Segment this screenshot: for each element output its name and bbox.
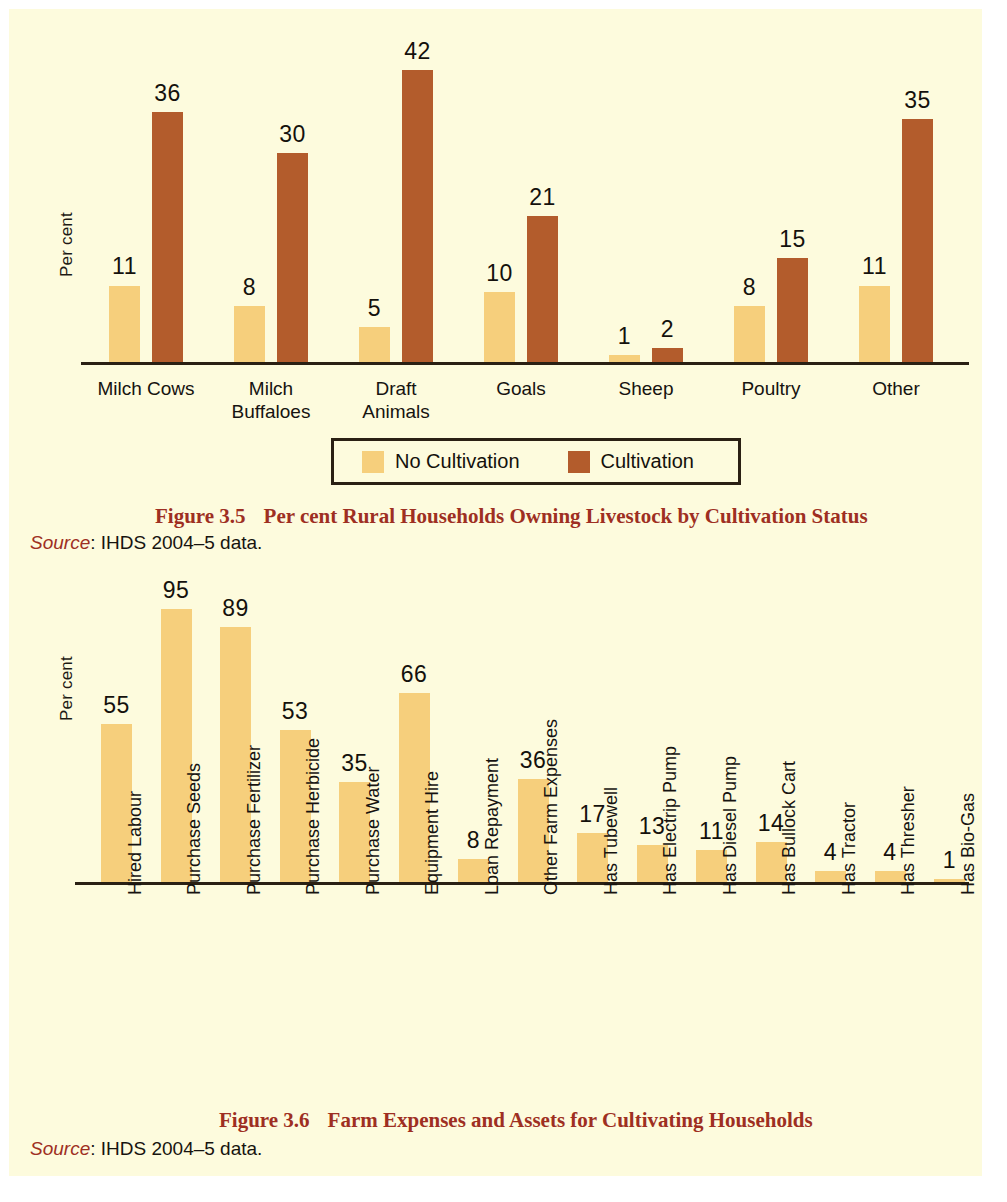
figure-3-5-bar-value: 30 — [259, 121, 326, 148]
figure-3-5-chart: Per cent 11368305421021128151135 Milch C… — [9, 9, 982, 484]
figure-3-5-caption-title: Per cent Rural Households Owning Livesto… — [264, 504, 868, 528]
figure-3-5-bar-value: 8 — [216, 274, 283, 301]
figure-3-5-bar-value: 15 — [759, 226, 826, 253]
figure-3-5-bar — [277, 153, 308, 362]
figure-3-5-x-axis-line — [81, 362, 969, 365]
legend-label-cultivation: Cultivation — [601, 450, 694, 473]
figure-3-5-bar-value: 5 — [341, 295, 408, 322]
figure-3-5-bar — [527, 216, 558, 362]
figure-3-5-caption-number: Figure 3.5 — [155, 504, 246, 528]
figure-3-5-source-text: : IHDS 2004–5 data. — [90, 532, 262, 553]
legend-swatch-cultivation-icon — [568, 451, 590, 473]
figure-3-5-bar — [234, 306, 265, 362]
figure-3-6-category-label: Has Electrip Pump — [660, 746, 681, 895]
figure-3-6-chart: Per cent 55958953356683617131114441 Hire… — [9, 569, 982, 1089]
figure-3-5-bar — [859, 286, 890, 363]
figure-3-6-caption-title: Farm Expenses and Assets for Cultivating… — [328, 1108, 813, 1132]
legend-label-no-cultivation: No Cultivation — [395, 450, 520, 473]
figure-3-5-category-labels: Milch CowsMilchBuffaloesDraftAnimalsGoal… — [9, 9, 982, 69]
figure-3-5-bar — [109, 286, 140, 363]
figure-3-6-source: Source: IHDS 2004–5 data. — [30, 1138, 262, 1160]
figure-3-5-bar — [777, 258, 808, 362]
figure-3-6-caption: Figure 3.6Farm Expenses and Assets for C… — [219, 1108, 813, 1133]
figure-3-6-category-label: Has Thresher — [898, 786, 919, 895]
figure-3-6-category-label: Has Diesel Pump — [720, 756, 741, 895]
figure-3-5-bar — [359, 327, 390, 362]
figure-3-5-bar — [652, 348, 683, 362]
figure-3-6-category-label: Has Tractor — [839, 802, 860, 895]
figure-3-5-bar-value: 8 — [716, 274, 783, 301]
figure-3-6-source-word: Source — [30, 1138, 90, 1159]
figure-3-5-legend: No Cultivation Cultivation — [331, 438, 741, 485]
figure-3-5-caption: Figure 3.5Per cent Rural Households Owni… — [155, 504, 868, 529]
legend-entry-no-cultivation: No Cultivation — [362, 450, 520, 473]
figure-3-5-plot-area: 11368305421021128151135 — [81, 49, 961, 362]
figure-3-5-bar — [152, 112, 183, 362]
figure-3-5-bar — [734, 306, 765, 362]
figure-3-6-category-label: Purchase Seeds — [184, 763, 205, 895]
figure-3-5-category-label: Other — [816, 377, 976, 400]
figure-3-6-category-labels: Hired LabourPurchase SeedsPurchase Ferti… — [9, 569, 982, 769]
figure-3-5-bar — [902, 119, 933, 362]
figure-3-5-bar-value: 11 — [91, 253, 158, 280]
figure-3-5-bar-value: 2 — [634, 316, 701, 343]
figure-3-6-category-label: Purchase Fertilizer — [244, 745, 265, 895]
figure-3-5-source: Source: IHDS 2004–5 data. — [30, 532, 262, 554]
figure-3-6-category-label: Purchase Water — [363, 767, 384, 895]
figure-3-5-bar-value: 11 — [841, 253, 908, 280]
figure-3-5-bar — [484, 292, 515, 362]
figure-3-5-bar-value: 10 — [466, 260, 533, 287]
figure-3-6-category-label: Other Farm Expenses — [541, 719, 562, 895]
figure-3-6-category-label: Has Bullock Cart — [779, 761, 800, 895]
legend-swatch-no-cultivation-icon — [362, 451, 384, 473]
figure-3-6-source-text: : IHDS 2004–5 data. — [90, 1138, 262, 1159]
figure-3-5-bar-value: 21 — [509, 184, 576, 211]
figure-3-6-x-axis-line — [75, 882, 969, 885]
figure-3-6-category-label: Hired Labour — [125, 791, 146, 895]
figure-3-5-bar-value: 35 — [884, 87, 951, 114]
figure-3-5-bar-value: 36 — [134, 80, 201, 107]
figure-3-6-caption-number: Figure 3.6 — [219, 1108, 310, 1132]
page-canvas: Per cent 11368305421021128151135 Milch C… — [9, 9, 982, 1176]
figure-3-5-bar — [402, 70, 433, 362]
figure-3-6-category-label: Has Tubewell — [601, 787, 622, 895]
figure-3-5-source-word: Source — [30, 532, 90, 553]
figure-3-6-category-label: Has Bio-Gas — [958, 793, 979, 895]
figure-3-6-category-label: Loan Repayment — [482, 758, 503, 895]
figure-3-6-category-label: Equipment Hire — [422, 771, 443, 895]
figure-3-6-category-label: Purchase Herbicide — [303, 738, 324, 895]
figure-3-5-bar — [609, 355, 640, 362]
figure-3-5-y-axis-label: Per cent — [57, 212, 77, 277]
legend-entry-cultivation: Cultivation — [568, 450, 694, 473]
